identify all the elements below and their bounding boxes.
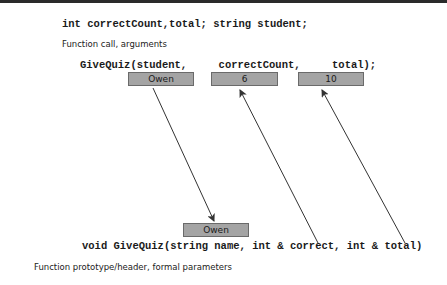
arrow-student-to-name <box>153 88 214 221</box>
function-prototype-line: void GiveQuiz(string name, int & correct… <box>82 240 422 252</box>
arrow-correct-to-correctcount <box>240 90 318 243</box>
parameter-name-box: Owen <box>183 223 249 237</box>
function-prototype-caption: Function prototype/header, formal parame… <box>34 262 232 273</box>
arrow-total-to-total <box>322 90 405 243</box>
